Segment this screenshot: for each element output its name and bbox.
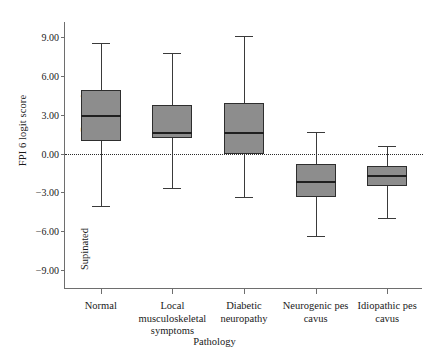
- whisker-cap-lower: [307, 236, 325, 237]
- y-tick-mark: [61, 231, 65, 232]
- y-tick-mark: [61, 270, 65, 271]
- box-rect: [224, 103, 264, 153]
- y-tick-label: 6.00: [21, 71, 59, 82]
- median-line: [224, 132, 264, 134]
- whisker-cap-upper: [92, 43, 110, 44]
- whisker-cap-lower: [235, 197, 253, 198]
- median-line: [296, 181, 336, 183]
- boxplot-figure: FPI 6 logit score 9.006.003.000.00−3.00−…: [0, 0, 429, 357]
- whisker-cap-lower: [163, 188, 181, 189]
- y-tick-mark: [61, 37, 65, 38]
- whisker-cap-lower: [92, 206, 110, 207]
- whisker-cap-upper: [307, 132, 325, 133]
- x-axis-title: Pathology: [0, 336, 429, 347]
- y-tick-mark: [61, 192, 65, 193]
- x-tick-mark: [172, 289, 173, 294]
- whisker-cap-upper: [378, 146, 396, 147]
- y-tick-label: −3.00: [21, 187, 59, 198]
- y-tick-label: −6.00: [21, 225, 59, 236]
- whisker-cap-upper: [235, 36, 253, 37]
- x-tick-label: Idiopathic pescavus: [338, 300, 429, 325]
- x-tick-label-line: Idiopathic pes: [338, 300, 429, 313]
- y-tick-label: 9.00: [21, 32, 59, 43]
- y-tick-label: 0.00: [21, 148, 59, 159]
- axis-annotation-supinated: Supinated: [79, 228, 90, 270]
- x-tick-mark: [387, 289, 388, 294]
- x-tick-mark: [101, 289, 102, 294]
- whisker-cap-lower: [378, 218, 396, 219]
- plot-area: 9.006.003.000.00−3.00−6.00−9.00PornatedS…: [64, 22, 422, 289]
- x-tick-mark: [244, 289, 245, 294]
- y-tick-mark: [61, 115, 65, 116]
- median-line: [152, 132, 192, 134]
- x-tick-mark: [316, 289, 317, 294]
- x-axis-title-text: Pathology: [193, 336, 236, 347]
- median-line: [81, 115, 121, 117]
- median-line: [367, 175, 407, 177]
- y-tick-mark: [61, 76, 65, 77]
- x-tick-label-line: cavus: [338, 313, 429, 326]
- whisker-cap-upper: [163, 53, 181, 54]
- y-tick-label: 3.00: [21, 109, 59, 120]
- y-tick-label: −9.00: [21, 264, 59, 275]
